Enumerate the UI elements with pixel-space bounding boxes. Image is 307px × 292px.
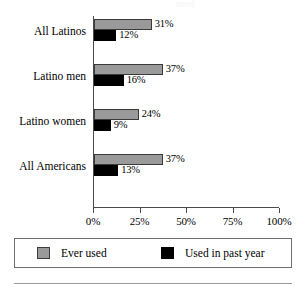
axis-tick <box>186 208 187 213</box>
bar-group: Latino men37%16% <box>0 64 307 88</box>
legend-swatch-ever-used <box>37 247 50 259</box>
axis-tick-label: 0% <box>71 215 115 228</box>
axis-tick <box>93 208 94 213</box>
bar-value-label: 13% <box>121 164 140 175</box>
legend-label-used-in-past-year: Used in past year <box>185 246 265 260</box>
axis-tick-label: 75% <box>211 215 255 228</box>
bar-value-label: 37% <box>166 63 185 74</box>
bar-group: Latino women24%9% <box>0 109 307 133</box>
axis-tick-label: 100% <box>257 215 301 228</box>
bar-group: All Americans37%13% <box>0 154 307 178</box>
chart-legend: Ever used Used in past year <box>14 238 292 268</box>
bar-group: All Latinos31%12% <box>0 19 307 43</box>
bar-value-label: 37% <box>166 153 185 164</box>
bar-past <box>94 165 118 176</box>
axis-tick-label: 50% <box>164 215 208 228</box>
bar-value-label: 12% <box>119 29 138 40</box>
bar-value-label: 31% <box>155 18 174 29</box>
bar-value-label: 16% <box>127 74 146 85</box>
bar-value-label: 9% <box>114 119 128 130</box>
axis-tick <box>140 208 141 213</box>
category-label: Latino men <box>0 68 86 84</box>
bottom-divider <box>14 283 292 284</box>
legend-swatch-used-in-past-year <box>161 247 174 259</box>
clipped-title: used <box>150 0 220 7</box>
axis-tick <box>233 208 234 213</box>
legend-item-used-in-past-year: Used in past year <box>161 239 265 267</box>
axis-tick <box>279 208 280 213</box>
bar-past <box>94 75 124 86</box>
category-label: Latino women <box>0 113 86 129</box>
chart-figure: used 0%25%50%75%100% All Latinos31%12%La… <box>0 0 307 292</box>
bar-value-label: 24% <box>142 108 161 119</box>
legend-label-ever-used: Ever used <box>61 246 107 260</box>
bar-past <box>94 120 111 131</box>
plot-area: 0%25%50%75%100% All Latinos31%12%Latino … <box>0 12 307 210</box>
axis-tick-label: 25% <box>118 215 162 228</box>
category-label: All Americans <box>0 158 86 174</box>
bar-past <box>94 30 116 41</box>
legend-item-ever-used: Ever used <box>37 239 107 267</box>
category-label: All Latinos <box>0 23 86 39</box>
